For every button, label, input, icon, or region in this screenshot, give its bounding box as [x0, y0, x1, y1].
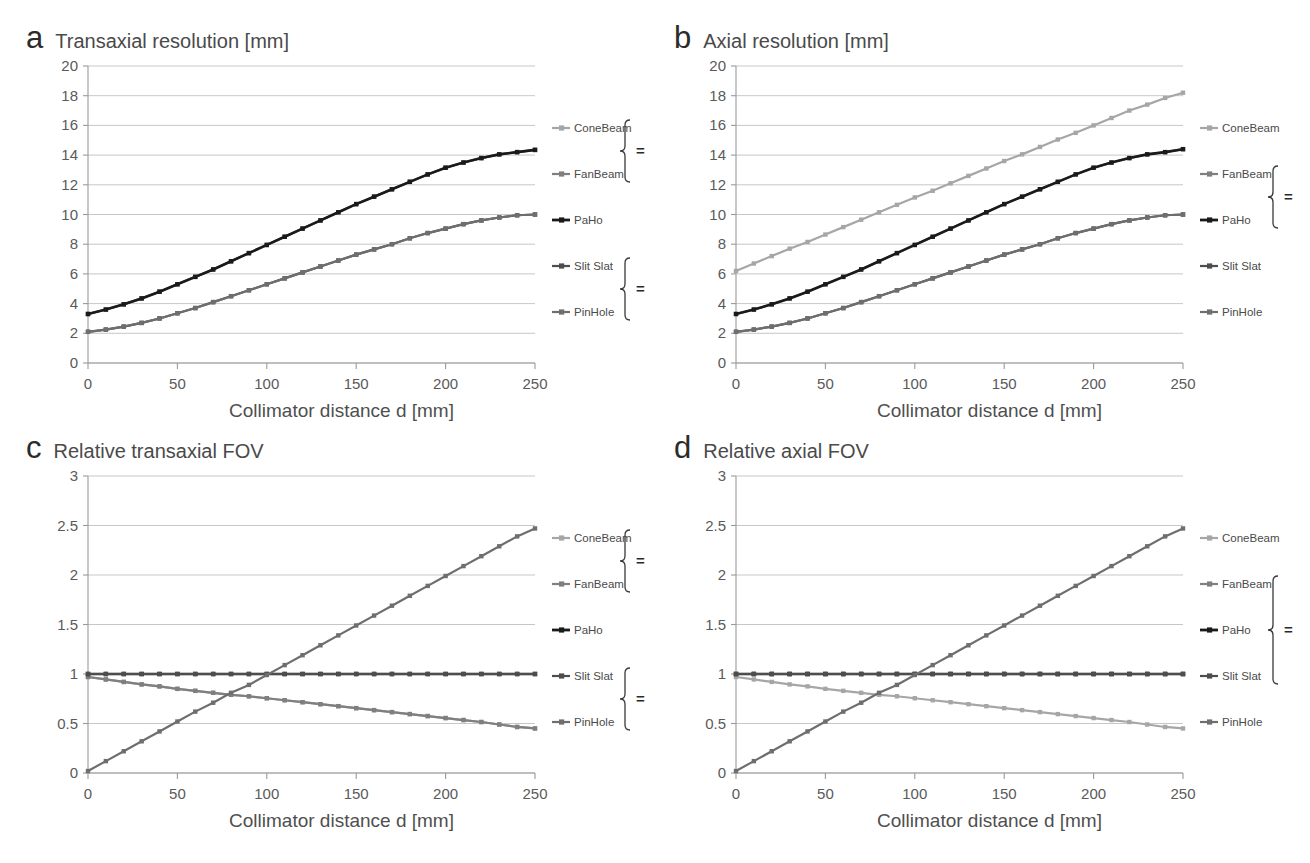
y-tick-label: 20: [61, 57, 78, 74]
y-tick-label: 2: [70, 566, 78, 583]
series-marker: [139, 682, 143, 686]
series-marker: [282, 276, 286, 280]
series-marker: [787, 321, 791, 325]
series-marker: [770, 302, 774, 306]
series-marker: [479, 720, 483, 724]
series-marker: [318, 264, 322, 268]
legend-label-pinhole[interactable]: PinHole: [1222, 716, 1262, 728]
series-marker: [515, 725, 519, 729]
x-tick-label: 0: [732, 785, 740, 802]
series-marker: [479, 218, 483, 222]
series-marker: [193, 689, 197, 693]
series-marker: [859, 300, 863, 304]
legend-label-conebeam[interactable]: ConeBeam: [1222, 532, 1280, 544]
x-tick-label: 100: [902, 375, 927, 392]
legend-group-brace: [1268, 576, 1278, 684]
legend-equals-sign: =: [636, 690, 645, 707]
series-marker: [787, 296, 791, 300]
series-marker: [913, 696, 917, 700]
series-marker: [1127, 672, 1131, 676]
y-tick-label: 2.5: [57, 517, 78, 534]
series-marker: [265, 673, 269, 677]
legend-label-fanbeam[interactable]: FanBeam: [1222, 168, 1272, 180]
series-marker: [408, 712, 412, 716]
legend-label-paho[interactable]: PaHo: [1222, 214, 1251, 226]
series-marker: [354, 706, 358, 710]
legend-label-conebeam[interactable]: ConeBeam: [574, 122, 632, 134]
legend-marker: [1207, 309, 1212, 314]
legend-marker: [559, 263, 564, 268]
series-marker: [734, 672, 738, 676]
legend-label-slit-slat[interactable]: Slit Slat: [1222, 670, 1262, 682]
series-marker: [426, 714, 430, 718]
series-marker: [752, 672, 756, 676]
series-line-conebeam: [736, 677, 1183, 728]
series-marker: [895, 288, 899, 292]
series-marker: [1020, 613, 1024, 617]
series-marker: [1074, 231, 1078, 235]
y-tick-label: 20: [709, 57, 726, 74]
legend-marker: [559, 581, 564, 586]
series-marker: [984, 166, 988, 170]
legend-label-conebeam[interactable]: ConeBeam: [1222, 122, 1280, 134]
series-line-fanbeam: [88, 150, 535, 314]
series-marker: [930, 189, 934, 193]
series-marker: [770, 749, 774, 753]
legend-label-fanbeam[interactable]: FanBeam: [574, 578, 624, 590]
series-marker: [930, 663, 934, 667]
series-marker: [104, 677, 108, 681]
series-marker: [497, 215, 501, 219]
series-line-slit-slat: [88, 215, 535, 332]
series-marker: [1163, 213, 1167, 217]
legend-label-fanbeam[interactable]: FanBeam: [574, 168, 624, 180]
legend-label-pinhole[interactable]: PinHole: [1222, 306, 1262, 318]
y-tick-label: 0: [718, 764, 726, 781]
y-tick-label: 0.5: [57, 715, 78, 732]
legend-marker: [1207, 627, 1212, 632]
series-marker: [752, 307, 756, 311]
legend-label-slit-slat[interactable]: Slit Slat: [574, 260, 614, 272]
legend-marker: [1207, 581, 1212, 586]
legend-label-fanbeam[interactable]: FanBeam: [1222, 578, 1272, 590]
series-marker: [1038, 145, 1042, 149]
x-tick-label: 100: [254, 375, 279, 392]
legend-label-pinhole[interactable]: PinHole: [574, 716, 614, 728]
y-tick-label: 1: [70, 665, 78, 682]
legend-label-slit-slat[interactable]: Slit Slat: [1222, 260, 1262, 272]
series-marker: [282, 672, 286, 676]
legend-label-paho[interactable]: PaHo: [1222, 624, 1251, 636]
series-marker: [1074, 714, 1078, 718]
legend-label-paho[interactable]: PaHo: [574, 214, 603, 226]
series-marker: [318, 702, 322, 706]
series-marker: [300, 672, 304, 676]
y-tick-label: 0.5: [705, 715, 726, 732]
series-line-slit-slat: [736, 215, 1183, 332]
legend-marker: [1207, 673, 1212, 678]
series-marker: [841, 306, 845, 310]
series-line-pinhole: [736, 528, 1183, 771]
series-marker: [86, 330, 90, 334]
series-marker: [1056, 672, 1060, 676]
series-marker: [823, 282, 827, 286]
legend-label-paho[interactable]: PaHo: [574, 624, 603, 636]
plot-area-c: 00.511.522.53050100150200250Collimator d…: [0, 418, 655, 838]
x-tick-label: 150: [344, 785, 369, 802]
series-marker: [1145, 152, 1149, 156]
series-marker: [318, 643, 322, 647]
series-marker: [1091, 166, 1095, 170]
y-tick-label: 6: [718, 265, 726, 282]
series-marker: [157, 290, 161, 294]
y-tick-label: 16: [61, 116, 78, 133]
legend-label-conebeam[interactable]: ConeBeam: [574, 532, 632, 544]
series-marker: [1181, 726, 1185, 730]
series-marker: [193, 275, 197, 279]
series-marker: [354, 672, 358, 676]
legend-label-slit-slat[interactable]: Slit Slat: [574, 670, 614, 682]
series-marker: [1056, 236, 1060, 240]
x-tick-label: 150: [992, 375, 1017, 392]
y-tick-label: 1.5: [57, 616, 78, 633]
legend-label-pinhole[interactable]: PinHole: [574, 306, 614, 318]
series-line-pinhole: [88, 215, 535, 332]
series-marker: [913, 673, 917, 677]
series-marker: [300, 270, 304, 274]
